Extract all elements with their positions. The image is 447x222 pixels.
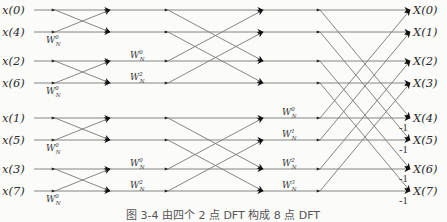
figure-caption: 图 3-4 由四个 2 点 DFT 构成 8 点 DFT — [126, 208, 320, 222]
input-label: x(7) — [2, 184, 25, 198]
twiddle-factor: W2N — [282, 157, 297, 170]
input-label: x(1) — [2, 111, 25, 125]
neg-one-label: -1 — [399, 122, 408, 133]
twiddle-factor: W0N — [46, 142, 61, 155]
fft-butterfly-diagram: x(0)x(4)x(2)x(6)x(1)x(5)x(3)x(7) X(0)X(1… — [0, 0, 447, 222]
input-label: x(2) — [2, 54, 25, 68]
twiddle-factor: W3N — [282, 179, 297, 192]
neg-one-label: -1 — [399, 144, 408, 155]
twiddle-factor: W2N — [130, 179, 145, 192]
output-label: X(1) — [412, 25, 437, 39]
input-label: x(6) — [2, 76, 25, 90]
output-label: X(0) — [412, 3, 437, 17]
output-label: X(3) — [412, 76, 437, 90]
input-label: x(5) — [2, 133, 25, 147]
twiddle-factor: W0N — [130, 157, 145, 170]
neg-one-label: -1 — [399, 195, 408, 206]
twiddle-factor: W0N — [282, 106, 297, 119]
neg-one-label: -1 — [399, 173, 408, 184]
twiddle-factor: W2N — [130, 71, 145, 84]
input-label: x(3) — [2, 162, 25, 176]
input-label: x(4) — [2, 25, 25, 39]
twiddle-factor: W0N — [46, 193, 61, 206]
input-labels: x(0)x(4)x(2)x(6)x(1)x(5)x(3)x(7) — [2, 3, 25, 198]
twiddle-factor: W1N — [282, 128, 297, 141]
output-label: X(5) — [412, 133, 437, 147]
negation-labels: -1-1-1-1 — [399, 122, 408, 206]
output-labels: X(0)X(1)X(2)X(3)X(4)X(5)X(6)X(7) — [412, 3, 437, 198]
output-label: X(6) — [412, 162, 437, 176]
twiddle-factor: W0N — [46, 85, 61, 98]
output-label: X(4) — [412, 111, 437, 125]
signal-lines — [34, 10, 410, 191]
output-label: X(2) — [412, 54, 437, 68]
output-label: X(7) — [412, 184, 437, 198]
twiddle-factor: W0N — [130, 49, 145, 62]
input-label: x(0) — [2, 3, 25, 17]
twiddle-factor: W0N — [46, 34, 61, 47]
